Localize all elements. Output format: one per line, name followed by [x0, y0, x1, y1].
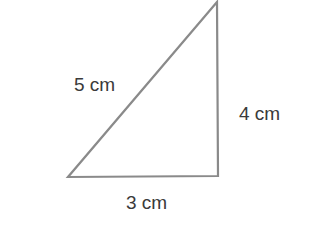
triangle-diagram: 5 cm 4 cm 3 cm: [0, 0, 313, 229]
hypotenuse-label: 5 cm: [74, 75, 115, 94]
vertical-side-label: 4 cm: [239, 104, 280, 123]
base-label: 3 cm: [126, 193, 167, 212]
